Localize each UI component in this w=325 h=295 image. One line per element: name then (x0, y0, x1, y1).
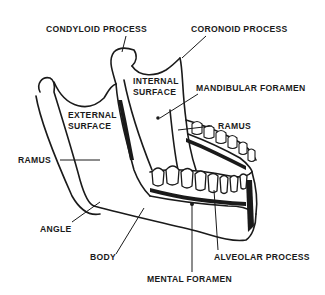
label-external-surface-line1: EXTERNAL (68, 110, 117, 120)
label-ramus-internal: RAMUS (218, 121, 251, 131)
label-angle: ANGLE (40, 224, 72, 234)
label-mandibular-foramen: MANDIBULAR FORAMEN (196, 83, 305, 93)
label-ramus-external: RAMUS (18, 155, 51, 165)
label-coronoid-process: CORONOID PROCESS (191, 24, 287, 34)
label-internal-surface-line1: INTERNAL (133, 76, 179, 86)
mandible-diagram: CONDYLOID PROCESS CORONOID PROCESS INTER… (0, 0, 325, 295)
label-mental-foramen: MENTAL FORAMEN (147, 274, 232, 284)
label-body: BODY (90, 252, 116, 262)
label-alveolar-process: ALVEOLAR PROCESS (214, 252, 310, 262)
label-internal-surface-line2: SURFACE (133, 87, 176, 97)
label-external-surface-line2: SURFACE (68, 121, 111, 131)
label-condyloid-process: CONDYLOID PROCESS (46, 24, 147, 34)
mandible-drawing (0, 0, 325, 295)
